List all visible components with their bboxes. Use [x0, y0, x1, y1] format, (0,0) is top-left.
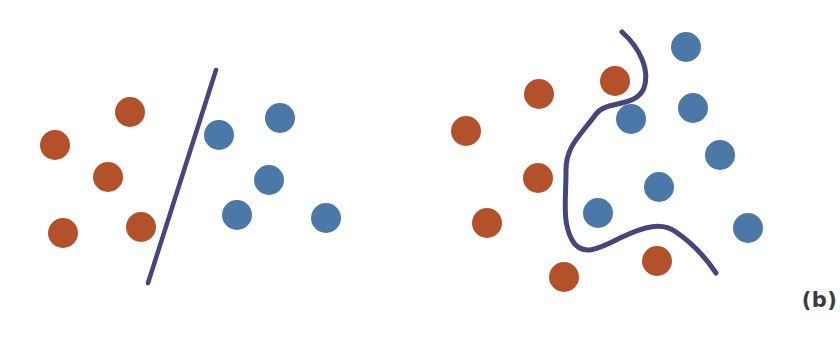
panel-b-caption: (b) [620, 288, 840, 312]
data-point-blue [265, 103, 295, 133]
data-point-red [40, 130, 70, 160]
panel-a-caption: (a) [0, 288, 180, 312]
data-point-red [523, 163, 553, 193]
data-point-blue [678, 93, 708, 123]
data-point-blue [222, 200, 252, 230]
data-point-blue [644, 172, 674, 202]
data-point-red [524, 79, 554, 109]
data-point-red [549, 262, 579, 292]
data-point-blue [733, 213, 763, 243]
data-point-blue [311, 203, 341, 233]
data-point-blue [583, 198, 613, 228]
data-point-blue [254, 165, 284, 195]
data-point-red [642, 246, 672, 276]
data-point-blue [616, 104, 646, 134]
data-point-blue [671, 32, 701, 62]
data-point-red [451, 116, 481, 146]
data-point-red [126, 212, 156, 242]
data-point-red [48, 218, 78, 248]
decision-boundary [565, 32, 716, 273]
decision-boundary [148, 70, 216, 283]
panel-a: (a) [0, 0, 400, 356]
data-point-red [115, 97, 145, 127]
data-point-red [600, 66, 630, 96]
panel-b: (b) [400, 0, 799, 356]
data-point-red [93, 162, 123, 192]
data-point-red [472, 208, 502, 238]
data-point-blue [705, 140, 735, 170]
data-point-blue [204, 120, 234, 150]
